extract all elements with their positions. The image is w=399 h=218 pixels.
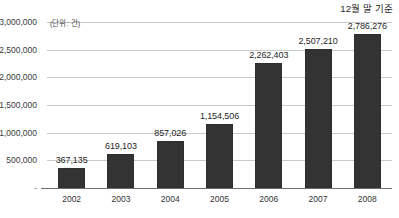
y-axis-tick-label: 3,000,000 xyxy=(0,17,37,27)
y-axis-tick-label: - xyxy=(0,183,37,193)
bars-group: 367,135619,103857,0261,154,5062,262,4032… xyxy=(47,22,392,188)
x-axis-tick-2002: 2002 xyxy=(47,194,96,204)
y-axis-tick-label: 2,000,000 xyxy=(0,72,37,82)
x-axis-tick-2005: 2005 xyxy=(195,194,244,204)
x-axis-tick-2007: 2007 xyxy=(293,194,342,204)
bar-value-label: 2,786,276 xyxy=(348,21,387,31)
bar-2003 xyxy=(107,154,134,188)
y-axis-tick-label: 1,000,000 xyxy=(0,128,37,138)
x-axis-tick-2004: 2004 xyxy=(146,194,195,204)
y-axis-tick-label: 2,500,000 xyxy=(0,45,37,55)
bar-value-label: 367,135 xyxy=(56,155,88,165)
bar-group-2002: 367,135 xyxy=(47,22,96,188)
bar-2006 xyxy=(255,63,282,188)
x-axis-line xyxy=(41,188,392,190)
x-axis-tick-2006: 2006 xyxy=(244,194,293,204)
bar-group-2008: 2,786,276 xyxy=(343,22,392,188)
bar-value-label: 619,103 xyxy=(105,141,137,151)
bar-value-label: 2,507,210 xyxy=(298,36,337,46)
bar-2004 xyxy=(157,141,184,188)
bar-group-2004: 857,026 xyxy=(146,22,195,188)
bar-chart-figure: 12월 말 기준 -500,0001,000,0001,500,0002,000… xyxy=(0,0,399,218)
bar-2008 xyxy=(354,34,381,188)
bar-2005 xyxy=(206,124,233,188)
bar-value-label: 2,262,403 xyxy=(249,50,288,60)
bar-group-2005: 1,154,506 xyxy=(195,22,244,188)
bar-value-label: 857,026 xyxy=(154,128,186,138)
bar-2002 xyxy=(58,168,85,188)
x-axis-tick-2008: 2008 xyxy=(343,194,392,204)
y-axis-tick-label: 1,500,000 xyxy=(0,100,37,110)
x-axis-labels: 2002200320042005200620072008 xyxy=(47,194,392,204)
bar-value-label: 1,154,506 xyxy=(200,111,239,121)
bar-2007 xyxy=(305,49,332,188)
bar-group-2006: 2,262,403 xyxy=(244,22,293,188)
bar-group-2003: 619,103 xyxy=(96,22,145,188)
plot-area: -500,0001,000,0001,500,0002,000,0002,500… xyxy=(47,22,392,188)
bar-group-2007: 2,507,210 xyxy=(293,22,342,188)
x-axis-tick-2003: 2003 xyxy=(96,194,145,204)
chart-annotation-top-right: 12월 말 기준 xyxy=(340,1,393,15)
y-axis-tick-label: 500,000 xyxy=(0,155,37,165)
